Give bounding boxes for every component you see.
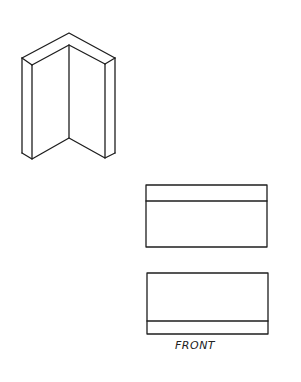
top-view-outline [146, 185, 267, 247]
front-view [147, 273, 268, 334]
drawing-canvas [0, 0, 301, 382]
isometric-view [22, 33, 115, 159]
iso-right-cap-edge [105, 58, 115, 64]
iso-bottom-edge [22, 138, 115, 159]
iso-left-cap-edge [22, 58, 32, 65]
front-view-label: FRONT [175, 339, 215, 352]
front-view-outline [147, 273, 268, 334]
top-view [146, 185, 267, 247]
